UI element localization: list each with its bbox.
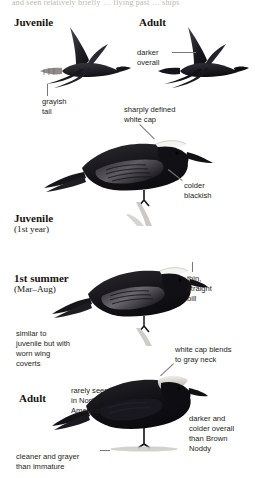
annotation-sharply-defined-white-cap: sharply defined white cap	[124, 105, 176, 125]
plate-label-title: Adult	[139, 16, 166, 28]
plate-label-title: 1st summer	[14, 272, 69, 284]
running-head-fragment: and seen relatively briefly … flying pas…	[12, 0, 244, 7]
leader-cleaner-grayer	[100, 450, 110, 451]
plate-label-subtitle: (Mar–Aug)	[14, 284, 69, 294]
plate-label-title: Adult	[19, 392, 46, 404]
plate-label-title: Juvenile	[14, 16, 53, 28]
annotation-colder-blackish: colder blackish	[184, 181, 211, 201]
plate-label-juvenile-perched: Juvenile(1st year)	[14, 212, 53, 235]
annotation-white-cap-blends: white cap blends to gray neck	[175, 345, 232, 365]
first-summer-noddy-perched-illustration	[52, 250, 208, 346]
annotation-rarely-seen: rarely seen in North America	[71, 386, 109, 416]
annotation-grayish-tail: grayish tail	[42, 97, 66, 117]
plate-label-juvenile-flight: Juvenile	[14, 16, 53, 28]
annotation-darker-overall: darker overall	[137, 48, 159, 68]
leader-grayish-tail	[47, 84, 48, 96]
leader-thin-bill	[192, 262, 193, 272]
field-guide-plate-page: and seen relatively briefly … flying pas…	[0, 0, 255, 478]
adult-noddy-flight-illustration	[150, 22, 254, 92]
annotation-darker-and-colder: darker and colder overall than Brown Nod…	[189, 414, 234, 454]
plate-label-subtitle: (1st year)	[14, 224, 53, 234]
annotation-thin-straight-bill: thin, straight bill	[187, 274, 212, 304]
leader-darker-overall	[172, 52, 196, 53]
plate-label-adult-flight: Adult	[139, 16, 166, 28]
juvenile-noddy-flight-illustration	[32, 22, 136, 92]
plate-label-title: Juvenile	[14, 212, 53, 224]
juvenile-noddy-perched-illustration	[40, 120, 216, 226]
plate-label-first-summer: 1st summer(Mar–Aug)	[14, 272, 69, 295]
plate-label-adult-perched: Adult	[19, 392, 46, 404]
annotation-cleaner-and-grayer: cleaner and grayer than immature	[16, 452, 79, 472]
annotation-similar-to-juvenile: similar to juvenile but with worn wing c…	[16, 329, 70, 369]
